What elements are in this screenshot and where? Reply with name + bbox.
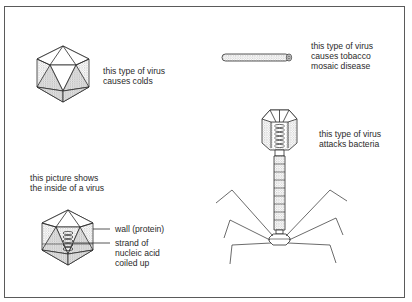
virus-interior-caption: this picture shows the inside of a virus [30,173,104,193]
label-line: this type of virus [319,129,381,139]
label-line: attacks bacteria [319,139,381,149]
icosahedron-virus-icon [37,46,89,102]
bacteriophage-label: this type of virus attacks bacteria [319,129,381,149]
caption-line: the inside of a virus [30,183,104,193]
label-line: causes tobacco [311,51,373,61]
label-line: mosaic disease [311,61,373,71]
wall-callout-label: wall (protein) [115,224,164,234]
rod-virus-icon [222,54,292,61]
label-line: this type of virus [311,41,373,51]
cold-virus-label: this type of virus causes colds [103,66,165,86]
callout-line: wall (protein) [115,224,164,234]
virus-cutaway-icon [42,210,110,265]
callout-line: strand of [115,238,160,248]
caption-line: this picture shows [30,173,104,183]
callout-line: coiled up [115,258,160,268]
tobacco-mosaic-virus-label: this type of virus causes tobacco mosaic… [311,41,373,72]
label-line: this type of virus [103,66,165,76]
nucleic-acid-callout-label: strand of nucleic acid coiled up [115,238,160,269]
label-line: causes colds [103,76,165,86]
callout-line: nucleic acid [115,248,160,258]
